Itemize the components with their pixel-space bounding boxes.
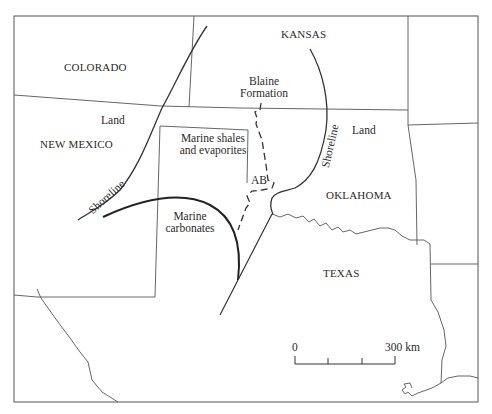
scale-bar-end-label: 300 km xyxy=(385,341,420,353)
label-kansas: KANSAS xyxy=(281,28,326,40)
blaine-formation-outline xyxy=(238,103,274,230)
label-blaine-line1: Blaine xyxy=(234,75,294,87)
label-blaine-line2: Formation xyxy=(234,87,294,99)
shoreline-west xyxy=(78,26,207,220)
label-marine-carbonates-line1: Marine xyxy=(155,210,225,222)
label-marine-shales: Marine shales and evaporites xyxy=(168,132,258,156)
label-marine-carbonates: Marine carbonates xyxy=(155,210,225,234)
shoreline-east xyxy=(271,49,327,214)
label-oklahoma: OKLAHOMA xyxy=(326,189,392,201)
label-texas: TEXAS xyxy=(323,267,359,279)
gulf-coast xyxy=(402,383,441,396)
label-colorado: COLORADO xyxy=(64,61,127,73)
red-river xyxy=(272,214,430,244)
label-new-mexico: NEW MEXICO xyxy=(40,138,113,150)
paleogeographic-map: COLORADO KANSAS NEW MEXICO OKLAHOMA TEXA… xyxy=(0,0,492,414)
texas-east-border xyxy=(430,244,478,383)
label-marine-shales-line2: and evaporites xyxy=(168,144,258,156)
label-marine-shales-line1: Marine shales xyxy=(168,132,258,144)
label-blaine-formation: Blaine Formation xyxy=(234,75,294,99)
label-ab: AB xyxy=(251,174,267,186)
basin-boundary-line xyxy=(220,214,272,315)
scale-bar-graphic xyxy=(295,356,395,364)
label-land-east: Land xyxy=(352,124,376,136)
scale-bar-start-label: 0 xyxy=(292,341,298,353)
label-marine-carbonates-line2: carbonates xyxy=(155,222,225,234)
label-land-west: Land xyxy=(101,114,125,126)
